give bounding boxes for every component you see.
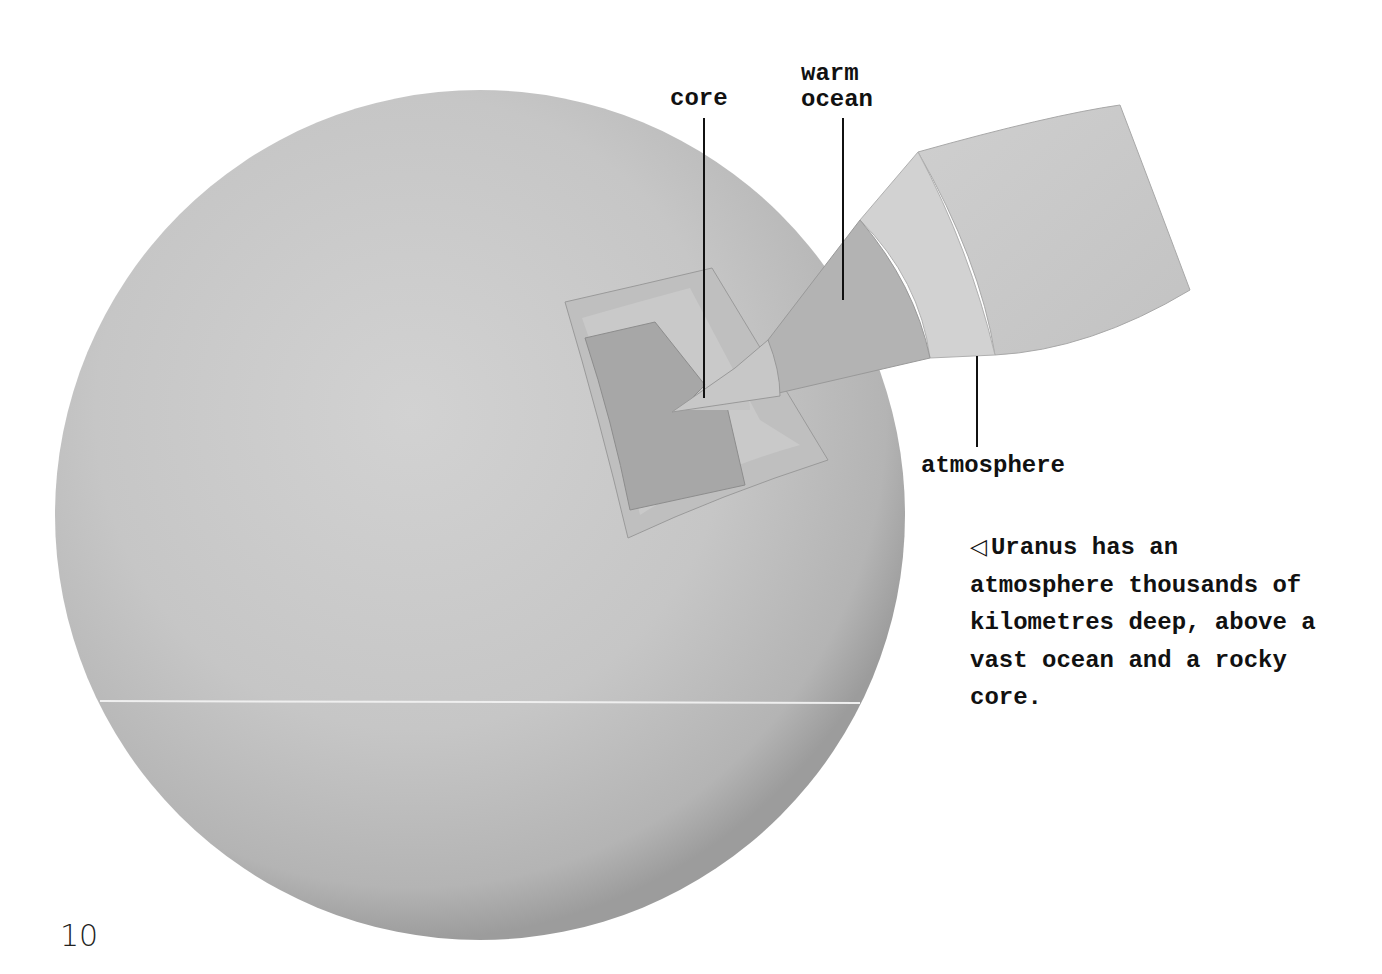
label-core: core [670,86,728,112]
caption-arrow-icon: ◁ [970,534,987,559]
caption-text: Uranus has an atmosphere thousands of ki… [970,534,1316,711]
caption: ◁Uranus has an atmosphere thousands of k… [970,528,1330,717]
page-number: 10 [60,918,98,953]
label-warm-ocean: warm ocean [801,61,873,113]
label-atmosphere: atmosphere [921,453,1065,479]
planet-sphere [55,90,905,940]
uranus-cutaway-diagram [0,0,1382,974]
